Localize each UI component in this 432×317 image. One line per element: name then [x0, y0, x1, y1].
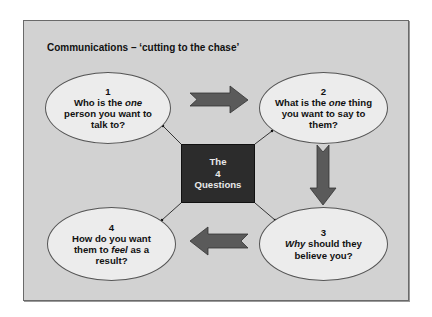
- question-3-line1: Why should they: [285, 238, 362, 249]
- question-2-line3: them?: [309, 119, 338, 130]
- question-4-ellipse: 4 How do you want them to feel as a resu…: [47, 207, 176, 281]
- question-1-ellipse: 1 Who is the one person you want to talk…: [45, 72, 171, 144]
- center-line2: 4: [215, 168, 220, 180]
- question-1-number: 1: [105, 86, 110, 97]
- question-3-ellipse: 3 Why should they believe you?: [259, 207, 388, 281]
- question-3-line2: believe you?: [294, 250, 352, 261]
- question-2-line1: What is the one thing: [275, 97, 372, 108]
- connector-to-q2: [255, 131, 272, 144]
- question-3-number: 3: [321, 227, 326, 238]
- question-1-line2: person you want to: [64, 108, 152, 119]
- question-4-line3: result?: [96, 255, 128, 266]
- arrow-right-icon: [190, 86, 248, 113]
- question-1-line3: talk to?: [91, 119, 125, 130]
- arrow-down-icon: [310, 145, 336, 205]
- connector-to-q3: [255, 203, 275, 220]
- center-line3: Questions: [195, 179, 242, 191]
- center-box-four-questions: The 4 Questions: [181, 144, 255, 203]
- connector-to-q1: [163, 126, 181, 144]
- question-1-line1: Who is the one: [74, 97, 142, 108]
- connector-to-q4: [162, 203, 181, 220]
- question-2-ellipse: 2 What is the one thing you want to say …: [259, 72, 388, 144]
- question-2-line2: you want to say to: [282, 108, 366, 119]
- question-4-number: 4: [109, 222, 114, 233]
- question-4-line1: How do you want: [72, 233, 151, 244]
- arrow-left-icon: [190, 227, 248, 255]
- question-4-line2: them to feel as a: [74, 244, 149, 255]
- center-line1: The: [209, 156, 226, 168]
- question-2-number: 2: [321, 86, 326, 97]
